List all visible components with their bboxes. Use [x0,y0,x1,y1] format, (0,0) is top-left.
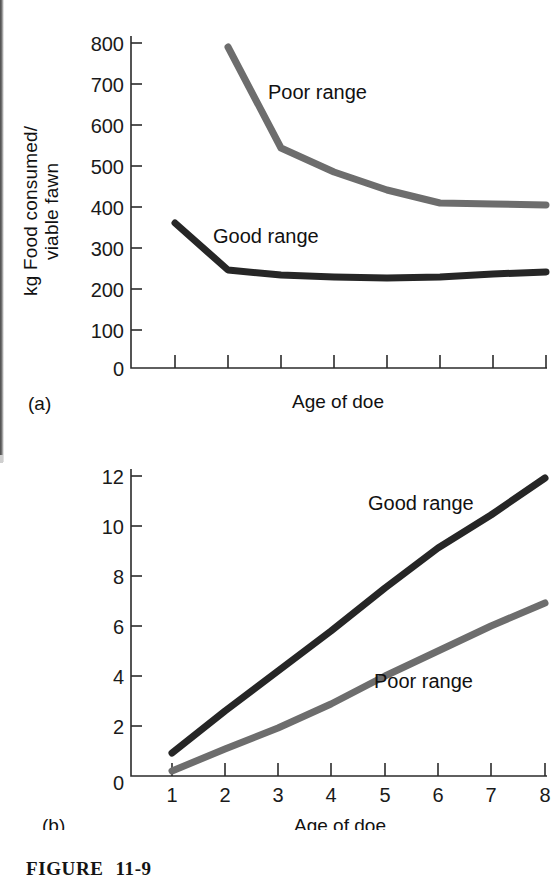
chart-b-label-poor-range: Poor range [374,670,473,692]
chart-a-svg: 800 700 600 500 400 300 200 100 0 Poor r… [0,0,554,446]
chart-a-series-poor-range [228,47,546,205]
x-tick-label: 4 [325,784,336,806]
chart-a-label-good-range: Good range [213,225,319,247]
chart-b-y-tick-labels: 12 10 8 6 4 2 0 [102,466,124,794]
chart-a-x-ticks [175,355,546,368]
chart-a-label-poor-range: Poor range [268,81,367,103]
x-tick-label: 5 [379,784,390,806]
chart-a-y-ticks [131,43,142,330]
chart-b-series-poor-range [172,603,545,771]
y-tick-label: 0 [113,358,124,380]
y-tick-label: 700 [91,74,124,96]
x-tick-label: 8 [539,784,550,806]
chart-a-x-axis-title: Age of doe [292,391,384,412]
x-tick-label: 7 [485,784,496,806]
chart-b-panel-tag: (b) [42,815,65,830]
y-tick-label: 4 [113,666,124,688]
chart-b-x-ticks [172,763,545,776]
y-tick-label: 12 [102,466,124,488]
x-tick-label: 2 [219,784,230,806]
x-tick-label: 6 [432,784,443,806]
y-tick-label: 10 [102,516,124,538]
y-tick-label: 100 [91,320,124,342]
y-tick-label: 200 [91,279,124,301]
y-tick-label: 600 [91,115,124,137]
y-tick-label: 0 [113,772,124,794]
chart-a-y-axis-title: kg Food consumed/ viable fawn [20,96,63,326]
chart-panel-b: 12 10 8 6 4 2 0 1 2 3 4 5 6 7 [0,430,554,830]
chart-b-x-tick-labels: 1 2 3 4 5 6 7 8 [166,784,550,806]
chart-b-y-ticks [131,476,142,726]
y-tick-label: 500 [91,156,124,178]
chart-b-svg: 12 10 8 6 4 2 0 1 2 3 4 5 6 7 [0,430,554,830]
y-tick-label: 8 [113,566,124,588]
chart-b-label-good-range: Good range [368,492,474,514]
y-tick-label: 6 [113,616,124,638]
y-tick-label: 300 [91,238,124,260]
chart-b-series-good-range [172,478,545,753]
chart-panel-a: 800 700 600 500 400 300 200 100 0 Poor r… [0,0,554,446]
y-tick-label: 400 [91,197,124,219]
x-tick-label: 1 [166,784,177,806]
chart-a-y-axis-title-text: kg Food consumed/ viable fawn [20,126,62,296]
figure-caption: FIGURE11-9 [26,858,152,880]
chart-b-x-axis-title: Age of doe [294,815,386,830]
x-tick-label: 3 [272,784,283,806]
figure-caption-label: FIGURE [26,858,104,879]
figure-caption-number: 11-9 [116,858,152,879]
y-tick-label: 2 [113,716,124,738]
y-tick-label: 800 [91,33,124,55]
chart-a-panel-tag: (a) [28,393,51,414]
chart-a-y-tick-labels: 800 700 600 500 400 300 200 100 0 [91,33,124,380]
